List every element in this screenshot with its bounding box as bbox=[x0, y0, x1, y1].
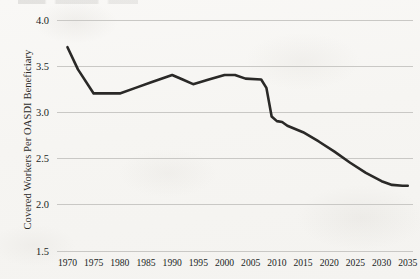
data-line-layer bbox=[0, 0, 420, 279]
line-chart: Covered Workers Per OASDI Beneficiary 1.… bbox=[0, 0, 420, 279]
series-line-covered-workers bbox=[67, 47, 407, 186]
